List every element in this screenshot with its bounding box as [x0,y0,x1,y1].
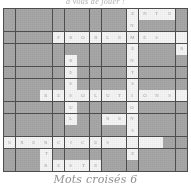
crossword-letter: E [33,140,36,145]
crossword-cell-blocked [4,102,16,113]
crossword-cell-open[interactable]: E [114,114,126,125]
crossword-cell-open[interactable]: N [151,90,163,101]
crossword-cell-blocked [163,79,175,90]
crossword-letter: E [131,12,134,17]
crossword-letter: I [132,93,134,98]
crossword-cell-blocked [77,55,89,66]
crossword-cell-blocked [163,102,175,113]
crossword-cell-open[interactable]: M [127,32,139,43]
crossword-cell-open[interactable]: E [127,9,139,20]
crossword-cell-open[interactable]: S [151,32,163,43]
crossword-cell-blocked [4,149,16,160]
crossword-cell-blocked [28,79,40,90]
crossword-cell-open[interactable]: U [65,102,77,113]
crossword-cell-open[interactable] [176,32,188,43]
crossword-cell-open[interactable] [176,90,188,101]
crossword-cell-open[interactable]: B [90,32,102,43]
crossword-cell-open[interactable]: I [65,137,77,148]
crossword-cell-open[interactable] [114,137,126,148]
crossword-cell-open[interactable]: R [40,160,52,171]
crossword-cell-open[interactable]: T [77,160,89,171]
crossword-cell-open[interactable]: L [90,90,102,101]
crossword-cell-open[interactable]: R [65,55,77,66]
crossword-cell-blocked [139,102,151,113]
crossword-cell-open[interactable]: E [53,160,65,171]
crossword-cell-open[interactable]: O [77,32,89,43]
crossword-cell-open[interactable]: E [4,137,16,148]
crossword-cell-open[interactable]: N [139,9,151,20]
crossword-cell-open[interactable]: T [151,9,163,20]
crossword-cell-open[interactable]: N [127,55,139,66]
crossword-cell-open[interactable]: R [176,44,188,55]
crossword-cell-open[interactable]: S [127,125,139,136]
crossword-cell-blocked [176,67,188,78]
crossword-letter: S [70,82,73,87]
crossword-cell-open[interactable]: N [127,20,139,31]
crossword-cell-blocked [102,102,114,113]
crossword-cell-open[interactable]: R [40,137,52,148]
crossword-cell-open[interactable]: I [127,90,139,101]
crossword-cell-open[interactable]: S [65,79,77,90]
crossword-cell-blocked [151,160,163,171]
crossword-cell-blocked [16,149,28,160]
crossword-cell-open[interactable]: S [65,90,77,101]
crossword-cell-open[interactable]: P [53,32,65,43]
crossword-cell-open[interactable]: E [163,9,175,20]
crossword-cell-open[interactable]: E [90,160,102,171]
crossword-cell-blocked [102,149,114,160]
crossword-cell-blocked [151,44,163,55]
crossword-cell-blocked [176,102,188,113]
crossword-cell-open[interactable]: S [127,79,139,90]
crossword-grid[interactable]: ENTENPROBLEMESERRNETSSRESOLUTIONSUOLRENS… [3,8,188,172]
crossword-cell-open[interactable]: U [102,90,114,101]
crossword-letter: T [45,152,48,157]
crossword-cell-blocked [40,9,52,20]
crossword-cell-open[interactable]: T [127,67,139,78]
crossword-cell-open[interactable]: S [65,160,77,171]
crossword-cell-blocked [151,102,163,113]
crossword-cell-blocked [163,125,175,136]
crossword-cell-open[interactable]: E [127,149,139,160]
crossword-cell-open[interactable]: O [127,102,139,113]
crossword-cell-open[interactable] [139,137,151,148]
crossword-cell-open[interactable]: E [139,32,151,43]
crossword-cell-open[interactable] [151,137,163,148]
crossword-letter: N [143,12,146,17]
crossword-letter: S [168,93,171,98]
crossword-cell-open[interactable]: O [139,90,151,101]
crossword-cell-open[interactable]: T [40,149,52,160]
crossword-cell-blocked [151,114,163,125]
crossword-cell-open[interactable]: C [53,137,65,148]
crossword-cell-open[interactable]: E [114,32,126,43]
crossword-cell-blocked [151,149,163,160]
crossword-cell-open[interactable]: S [102,137,114,148]
crossword-cell-blocked [4,79,16,90]
crossword-cell-open[interactable]: R [40,90,52,101]
crossword-cell-open[interactable]: O [77,90,89,101]
crossword-cell-blocked [53,125,65,136]
crossword-cell-open[interactable]: E [28,137,40,148]
crossword-cell-open[interactable]: E [90,137,102,148]
crossword-cell-open[interactable]: C [77,137,89,148]
crossword-cell-open[interactable]: E [127,44,139,55]
crossword-cell-open[interactable] [127,137,139,148]
crossword-grid-container[interactable]: ENTENPROBLEMESERRNETSSRESOLUTIONSUOLRENS… [3,8,188,172]
crossword-cell-open[interactable]: S [163,90,175,101]
crossword-letter: S [156,35,159,40]
crossword-cell-open[interactable] [163,32,175,43]
crossword-cell-open[interactable]: R [102,114,114,125]
crossword-cell-blocked [53,55,65,66]
crossword-cell-open[interactable]: E [53,90,65,101]
crossword-cell-open[interactable]: N [127,114,139,125]
crossword-cell-open[interactable]: X [16,137,28,148]
crossword-cell-open[interactable]: T [114,90,126,101]
crossword-cell-open[interactable]: E [65,67,77,78]
crossword-cell-open[interactable]: L [102,32,114,43]
crossword-cell-blocked [90,114,102,125]
crossword-cell-blocked [53,149,65,160]
crossword-cell-open[interactable]: R [65,32,77,43]
crossword-cell-blocked [53,20,65,31]
crossword-cell-blocked [53,114,65,125]
crossword-cell-open[interactable]: L [65,114,77,125]
crossword-cell-blocked [16,44,28,55]
